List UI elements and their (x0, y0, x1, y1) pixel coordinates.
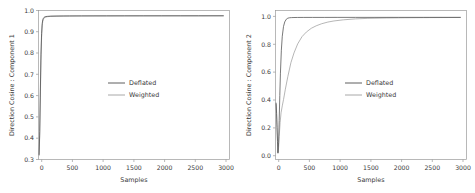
legend-left: Deflated Weighted (108, 79, 159, 99)
y-axis-title: Direction Cosine : Component 2 (245, 34, 253, 136)
legend-label-weighted: Weighted (129, 91, 159, 99)
y-tick-label: 0.2 (261, 124, 271, 131)
x-tick-label: 2500 (424, 164, 440, 171)
y-tick-label: 0.9 (24, 28, 34, 35)
y-axis-title: Direction Cosine : Component 1 (8, 34, 16, 136)
x-tickmarks-left (42, 160, 226, 163)
x-tick-label: 2500 (187, 164, 203, 171)
y-tick-label: 0.6 (261, 68, 271, 75)
x-tick-label: 1000 (332, 164, 348, 171)
x-tick-label: 3000 (455, 164, 471, 171)
x-tick-label: 3000 (218, 164, 234, 171)
chart-panel-component-2: 0.0 0.2 0.4 0.6 0.8 1.0 0 500 1000 1500 … (237, 0, 475, 193)
figure-container: 0.3 0.4 0.5 0.6 0.7 0.8 0.9 1.0 0 500 10… (0, 0, 475, 193)
legend-label-deflated: Deflated (129, 79, 156, 87)
y-tick-label: 0.4 (261, 96, 271, 103)
x-tick-label: 0 (40, 164, 44, 171)
y-tick-label: 0.5 (24, 113, 34, 120)
legend-label-weighted: Weighted (366, 91, 396, 99)
chart-svg-right: 0.0 0.2 0.4 0.6 0.8 1.0 0 500 1000 1500 … (237, 0, 475, 193)
y-tick-label: 0.6 (24, 92, 34, 99)
y-tick-label: 0.0 (261, 152, 271, 159)
x-tick-label: 1500 (126, 164, 142, 171)
y-tick-label: 0.4 (24, 134, 34, 141)
chart-svg-left: 0.3 0.4 0.5 0.6 0.7 0.8 0.9 1.0 0 500 10… (0, 0, 238, 193)
x-tickmarks-right (279, 160, 463, 163)
y-tick-label: 0.8 (261, 41, 271, 48)
x-axis-title: Samples (357, 176, 385, 184)
y-tick-label: 1.0 (24, 7, 34, 14)
y-tickmarks-right (273, 16, 276, 155)
y-tick-label: 1.0 (261, 13, 271, 20)
x-tick-label: 2000 (394, 164, 410, 171)
x-tick-label: 0 (277, 164, 281, 171)
x-axis-title: Samples (120, 176, 148, 184)
x-tick-label: 1500 (363, 164, 379, 171)
legend-right: Deflated Weighted (345, 79, 396, 99)
y-tick-label: 0.7 (24, 71, 34, 78)
x-tick-label: 2000 (157, 164, 173, 171)
x-tick-label: 500 (303, 164, 315, 171)
x-tick-label: 500 (66, 164, 78, 171)
y-tick-label: 0.3 (24, 156, 34, 163)
x-tick-label: 1000 (95, 164, 111, 171)
y-tick-label: 0.8 (24, 49, 34, 56)
y-tickmarks-left (36, 11, 39, 160)
legend-label-deflated: Deflated (366, 79, 393, 87)
chart-panel-component-1: 0.3 0.4 0.5 0.6 0.7 0.8 0.9 1.0 0 500 10… (0, 0, 238, 193)
